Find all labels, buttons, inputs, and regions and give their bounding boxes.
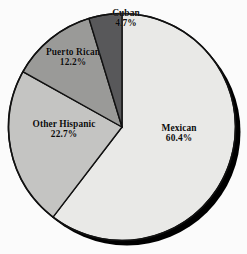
pie-label-puerto-rican-value: 12.2% [23, 58, 123, 68]
pie-chart: Cuban 4.7% Puerto Rican 12.2% Other Hisp… [0, 0, 247, 254]
pie-label-other-hispanic: Other Hispanic 22.7% [8, 120, 120, 139]
pie-label-cuban: Cuban 4.7% [95, 9, 157, 28]
pie-label-mexican-value: 60.4% [140, 134, 218, 144]
pie-label-cuban-value: 4.7% [95, 19, 157, 29]
pie-label-puerto-rican: Puerto Rican 12.2% [23, 48, 123, 67]
pie-label-other-hispanic-value: 22.7% [8, 130, 120, 140]
pie-label-mexican: Mexican 60.4% [140, 124, 218, 143]
